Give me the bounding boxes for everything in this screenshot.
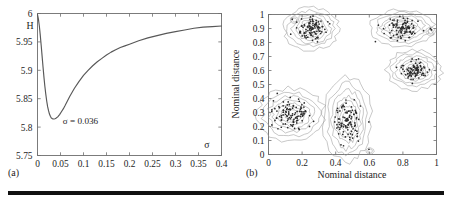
scatter-point [339, 110, 341, 112]
scatter-point [400, 67, 402, 69]
scatter-point [343, 145, 345, 147]
scatter-point [347, 129, 349, 131]
scatter-point [411, 70, 413, 72]
scatter-point [316, 30, 318, 32]
scatter-point [391, 37, 393, 39]
panel-b-x-tick-label: 0.4 [330, 158, 342, 168]
scatter-point [407, 69, 409, 71]
scatter-point [336, 124, 338, 126]
scatter-point [286, 108, 288, 110]
scatter-point [396, 66, 398, 68]
scatter-point [310, 35, 312, 37]
scatter-point [343, 131, 345, 133]
scatter-point [343, 126, 345, 128]
scatter-point [296, 27, 298, 29]
scatter-point [282, 105, 284, 107]
scatter-point [347, 127, 349, 129]
panel-a-x-tick-label: 0.05 [52, 159, 69, 169]
scatter-point [402, 35, 404, 37]
scatter-point [411, 58, 413, 60]
scatter-point [274, 120, 276, 122]
scatter-point [307, 30, 309, 32]
panel-a-x-tick-label: 0.3 [170, 159, 182, 169]
scatter-point [315, 20, 317, 22]
scatter-point [396, 23, 398, 25]
panel-b-x-tick-label: 0.8 [397, 158, 409, 168]
scatter-point [285, 110, 287, 112]
scatter-point [312, 40, 314, 42]
scatter-point [383, 28, 385, 30]
scatter-point [271, 110, 273, 112]
scatter-point [418, 77, 420, 79]
scatter-point [318, 23, 320, 25]
scatter-point [296, 118, 298, 120]
panel-b-x-axis-title: Nominal distance [318, 169, 387, 180]
scatter-point [287, 104, 289, 106]
scatter-point [410, 75, 412, 77]
scatter-point [351, 131, 353, 133]
scatter-point [350, 133, 352, 135]
scatter-point [337, 111, 339, 113]
scatter-point [313, 120, 315, 122]
scatter-point [312, 15, 314, 17]
scatter-point [300, 116, 302, 118]
scatter-point [315, 33, 317, 35]
scatter-point [394, 24, 396, 26]
panel-a-y-tick-label: 6 [28, 9, 33, 19]
scatter-point [357, 133, 359, 135]
scatter-point [318, 21, 320, 23]
scatter-point [298, 128, 300, 130]
scatter-point [351, 116, 353, 118]
scatter-point [356, 112, 358, 114]
scatter-point [290, 117, 292, 119]
scatter-point [414, 67, 416, 69]
scatter-point [295, 112, 297, 114]
scatter-point [327, 21, 329, 23]
scatter-point [305, 31, 307, 33]
scatter-point [341, 106, 343, 108]
scatter-point [358, 140, 360, 142]
scatter-point [298, 98, 300, 100]
scatter-point [350, 112, 352, 114]
scatter-point [431, 29, 433, 31]
scatter-point [351, 110, 353, 112]
panel-a-plot-frame [38, 14, 222, 156]
scatter-point [397, 40, 399, 42]
scatter-point [334, 116, 336, 118]
scatter-point [310, 16, 312, 18]
panel-b-x-tick-label: 1 [434, 158, 439, 168]
panel-b-caption: (b) [246, 167, 258, 179]
scatter-point [348, 110, 350, 112]
scatter-point [409, 74, 411, 76]
scatter-point [311, 32, 313, 34]
panel-b-x-tick-labels: 00.20.40.60.81 [266, 158, 439, 168]
scatter-point [312, 24, 314, 26]
scatter-point [292, 125, 294, 127]
scatter-point [420, 65, 422, 67]
scatter-point [411, 72, 413, 74]
panel-b-y-axis-title: Nominal distance [230, 49, 241, 118]
scatter-point [417, 69, 419, 71]
scatter-point [400, 35, 402, 37]
scatter-point [337, 126, 339, 128]
panel-a-line-chart: 00.050.10.150.20.250.30.350.4 5.755.85.8… [0, 0, 232, 180]
scatter-point [308, 22, 310, 24]
scatter-point [353, 99, 355, 101]
scatter-point [316, 22, 318, 24]
scatter-point [349, 136, 351, 138]
scatter-point [395, 26, 397, 28]
scatter-point [397, 36, 399, 38]
scatter-point [354, 110, 356, 112]
scatter-point [345, 127, 347, 129]
scatter-point [400, 29, 402, 31]
panel-a-y-tick-label: 5.8 [21, 123, 33, 133]
scatter-point [345, 125, 347, 127]
scatter-point [281, 120, 283, 122]
scatter-point [287, 118, 289, 120]
scatter-point [334, 121, 336, 123]
scatter-point [402, 68, 404, 70]
scatter-point [348, 116, 350, 118]
scatter-point [411, 20, 413, 22]
scatter-point [410, 61, 412, 63]
figure-container: 00.050.10.150.20.250.30.350.4 5.755.85.8… [0, 0, 452, 206]
